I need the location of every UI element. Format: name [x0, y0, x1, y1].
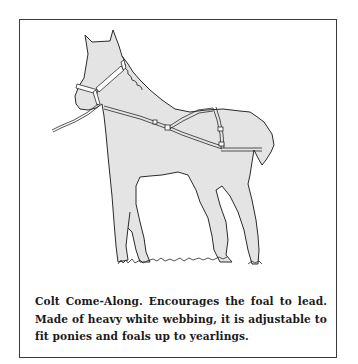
- caption-line-1: Colt Come-Along. Encourages the foal to …: [35, 293, 327, 311]
- caption-line-2: Made of heavy white webbing, it is adjus…: [35, 311, 327, 329]
- caption-line-3: fit ponies and foals up to yearlings.: [35, 328, 327, 346]
- foal-illustration-icon: [0, 0, 358, 280]
- figure-caption: Colt Come-Along. Encourages the foal to …: [35, 293, 327, 346]
